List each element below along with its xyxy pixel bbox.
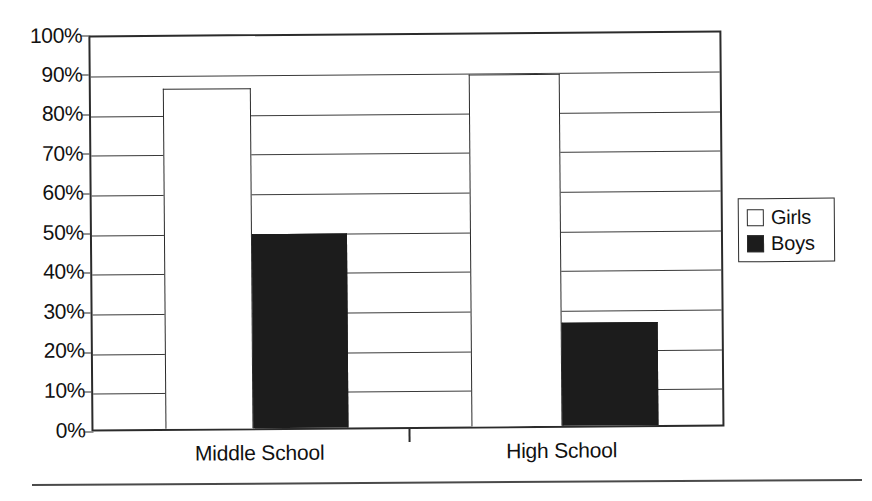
y-tick-label-40: 40% <box>0 260 84 282</box>
legend-label-girls: Girls <box>771 207 811 227</box>
y-axis: 100% 90% 80% 70% 60% 50% 40% 30% 20% 10%… <box>0 2 86 473</box>
y-tick-label-100: 100% <box>0 24 82 46</box>
legend-entry-girls: Girls <box>747 204 834 231</box>
y-tick-label-50: 50% <box>0 221 84 243</box>
y-tick-label-20: 20% <box>1 339 85 361</box>
y-tick-label-0: 0% <box>1 419 85 441</box>
bar-girls-middle-school <box>163 88 254 429</box>
scanned-page: 100% 90% 80% 70% 60% 50% 40% 30% 20% 10%… <box>0 0 872 501</box>
legend-swatch-boys-icon <box>747 235 764 252</box>
y-tick-label-70: 70% <box>0 142 83 164</box>
legend-swatch-girls-icon <box>747 209 764 226</box>
legend-entry-boys: Boys <box>747 230 834 257</box>
bar-boys-middle-school <box>252 233 349 428</box>
x-category-label-middle-school: Middle School <box>150 440 370 466</box>
bar-chart-figure: 100% 90% 80% 70% 60% 50% 40% 30% 20% 10%… <box>0 0 872 473</box>
y-tick-label-30: 30% <box>0 300 84 322</box>
bar-girls-high-school <box>469 74 563 427</box>
plot-area <box>88 30 724 431</box>
legend-label-boys: Boys <box>771 233 815 253</box>
y-tick-label-90: 90% <box>0 63 83 85</box>
x-axis-group-separator-tick <box>408 429 410 442</box>
y-tick-label-60: 60% <box>0 181 84 203</box>
y-tick-label-80: 80% <box>0 102 83 124</box>
y-tick-mark-0 <box>83 431 93 432</box>
x-category-label-high-school: High School <box>462 438 662 464</box>
page-divider-rule <box>32 479 862 486</box>
legend: Girls Boys <box>738 198 835 263</box>
gridline-90 <box>91 71 720 77</box>
y-tick-label-10: 10% <box>1 379 85 401</box>
bar-boys-high-school <box>562 322 659 426</box>
